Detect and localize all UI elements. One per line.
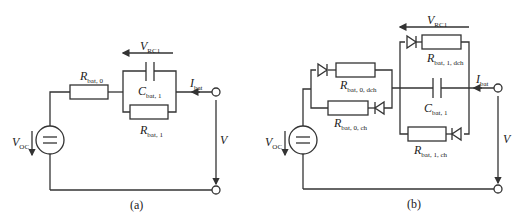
panel-b-circuit: VRC1 Rbat, 1, dch Rbat, 0, dch Rbat, 0, … xyxy=(265,13,512,211)
diode-b-r1-dch-icon xyxy=(407,36,416,48)
label-a-v-rc1: VRC1 xyxy=(140,39,161,55)
label-a-v: V xyxy=(220,133,229,147)
resistor-b-r-bat-0-dch xyxy=(336,63,375,77)
label-b-r-bat-0-ch: Rbat, 0, ch xyxy=(333,116,368,132)
terminal-b-top xyxy=(494,84,502,92)
caption-a: (a) xyxy=(130,198,143,212)
label-a-r-bat-1: Rbat, 1 xyxy=(139,123,163,139)
terminal-b-bottom xyxy=(494,185,502,193)
label-b-v-oc: VOC xyxy=(265,135,282,151)
wire-b-left xyxy=(303,89,311,126)
terminal-a-top xyxy=(212,88,220,96)
panel-a-circuit: VRC1 Rbat, 0 Cbat, 1 Rbat, 1 Ibat VOC V … xyxy=(12,39,229,212)
terminal-a-bottom xyxy=(212,186,220,194)
resistor-b-r-bat-0-ch xyxy=(328,101,368,115)
diode-b-r1-ch-icon xyxy=(452,128,461,140)
label-b-r-bat-1-ch: Rbat, 1, ch xyxy=(413,143,448,159)
label-b-r-bat-0-dch: Rbat, 0, dch xyxy=(339,78,377,94)
resistor-a-r-bat-1 xyxy=(130,105,168,119)
label-a-r-bat-0: Rbat, 0 xyxy=(79,69,103,85)
circuit-diagrams: VRC1 Rbat, 0 Cbat, 1 Rbat, 1 Ibat VOC V … xyxy=(0,0,521,219)
voltage-source-b-icon xyxy=(289,126,317,154)
label-a-i-bat: Ibat xyxy=(189,76,203,92)
wire-a-left xyxy=(50,92,70,126)
label-b-v-rc1: VRC1 xyxy=(427,13,448,29)
diode-b-r0-ch-icon xyxy=(375,102,384,114)
label-a-c-bat-1: Cbat, 1 xyxy=(138,84,162,100)
resistor-b-r-bat-1-ch xyxy=(408,127,446,141)
label-a-v-oc: VOC xyxy=(12,135,29,151)
label-b-r-bat-1-dch: Rbat, 1, dch xyxy=(426,51,464,67)
label-b-v: V xyxy=(503,132,512,146)
label-b-i-bat: Ibat xyxy=(475,72,489,88)
resistor-b-r-bat-1-dch xyxy=(422,35,461,49)
resistor-a-r-bat-0 xyxy=(70,85,108,99)
voltage-source-a-icon xyxy=(36,126,64,154)
diode-b-r0-dch-icon xyxy=(318,64,327,76)
label-b-c-bat-1: Cbat, 1 xyxy=(424,101,448,117)
caption-b: (b) xyxy=(407,197,421,211)
